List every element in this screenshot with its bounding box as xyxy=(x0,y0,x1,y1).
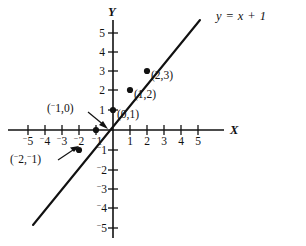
figure-canvas: −5 −4 −3 −2 −1 1 2 3 4 5 5 4 3 2 1 −1 −2… xyxy=(0,0,306,246)
x-tick-label: −3 xyxy=(57,134,68,148)
data-point xyxy=(144,68,150,74)
y-tick-label: −5 xyxy=(97,221,108,235)
point-label-0-1: (0,1) xyxy=(117,108,139,121)
point-label-neg1-0: (−1,0) xyxy=(47,101,74,116)
data-point xyxy=(93,127,99,133)
y-tick-label: −4 xyxy=(97,201,108,215)
x-tick-label: −4 xyxy=(40,134,51,148)
x-tick-label: 3 xyxy=(161,135,167,147)
data-point xyxy=(110,107,116,113)
x-tick-label: 1 xyxy=(127,135,133,147)
x-axis-label: X xyxy=(229,123,239,137)
x-tick-label: 2 xyxy=(144,135,150,147)
equation-label: y = x + 1 xyxy=(216,9,266,24)
data-point xyxy=(76,147,82,153)
y-tick-label: 3 xyxy=(99,65,105,77)
y-axis-label: Y xyxy=(108,5,117,19)
data-point xyxy=(127,87,133,93)
point-label-2-3: (2,3) xyxy=(151,69,173,82)
y-tick-label: 2 xyxy=(99,84,105,96)
leader-line-point-neg1-0 xyxy=(88,112,108,129)
point-label-1-2: (1,2) xyxy=(134,88,156,101)
x-tick-label: −5 xyxy=(23,134,34,148)
x-tick-label: −2 xyxy=(74,134,85,148)
leader-line-point-neg2-neg1 xyxy=(58,146,79,160)
x-tick-label: 5 xyxy=(195,135,201,147)
line-series-y-equals-x-plus-1 xyxy=(33,20,200,225)
y-tick-label: 5 xyxy=(99,27,105,39)
y-tick-label: −3 xyxy=(97,182,108,196)
y-tick-label: −2 xyxy=(97,163,108,177)
point-label-neg2-neg1: (−2,−1) xyxy=(10,152,41,167)
y-tick-label: 4 xyxy=(99,46,105,58)
x-axis-tick-labels: −5 −4 −3 −2 −1 1 2 3 4 5 xyxy=(23,134,201,148)
coordinate-plane-graph: −5 −4 −3 −2 −1 1 2 3 4 5 5 4 3 2 1 −1 −2… xyxy=(0,0,306,246)
y-tick-label: 1 xyxy=(99,104,105,116)
x-tick-label: 4 xyxy=(178,135,184,147)
